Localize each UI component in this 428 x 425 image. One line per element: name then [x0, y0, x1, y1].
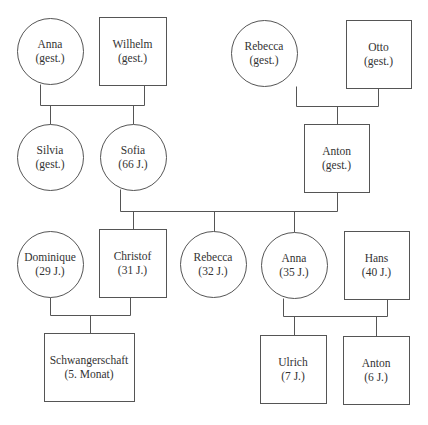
person-name: Rebecca	[194, 250, 233, 264]
person-anton-gen4: Anton (6 J.)	[343, 336, 409, 404]
person-sofia: Sofia (66 J.)	[100, 124, 166, 190]
person-rebecca-gen3: Rebecca (32 J.)	[180, 231, 246, 297]
connection-lines	[41, 85, 388, 337]
person-name: Anton	[362, 356, 391, 370]
person-name: Dominique	[24, 250, 76, 264]
person-status: (gest.)	[249, 53, 278, 67]
person-status: (gest.)	[118, 51, 147, 65]
person-wilhelm: Wilhelm (gest.)	[99, 17, 166, 85]
person-status: (gest.)	[364, 54, 393, 68]
person-ulrich: Ulrich (7 J.)	[260, 335, 326, 403]
person-anna-gen3: Anna (35 J.)	[261, 232, 327, 298]
person-silvia: Silvia (gest.)	[17, 124, 83, 190]
person-status: (66 J.)	[118, 157, 147, 171]
person-name: Wilhelm	[113, 37, 153, 51]
person-status: (gest.)	[322, 158, 351, 172]
person-rebecca-gen1: Rebecca (gest.)	[231, 20, 297, 86]
person-status: (gest.)	[35, 51, 64, 65]
person-hans: Hans (40 J.)	[344, 231, 409, 299]
person-name: Silvia	[37, 143, 64, 157]
person-name: Sofia	[121, 143, 145, 157]
person-name: Rebecca	[245, 39, 284, 53]
person-schwangerschaft: Schwangerschaft (5. Monat)	[44, 333, 134, 401]
person-name: Anton	[322, 144, 351, 158]
person-status: (32 J.)	[198, 264, 227, 278]
person-status: (7 J.)	[281, 369, 305, 383]
person-name: Anna	[282, 251, 307, 265]
person-otto: Otto (gest.)	[346, 20, 411, 88]
person-anna-gen1: Anna (gest.)	[17, 18, 83, 84]
person-dominique: Dominique (29 J.)	[17, 231, 83, 297]
person-status: (gest.)	[35, 157, 64, 171]
person-christof: Christof (31 J.)	[99, 229, 166, 297]
person-status: (5. Monat)	[64, 367, 113, 381]
person-status: (35 J.)	[279, 265, 308, 279]
person-name: Ulrich	[278, 355, 307, 369]
person-name: Hans	[365, 251, 389, 265]
person-anton-gen2: Anton (gest.)	[304, 124, 369, 192]
person-status: (29 J.)	[35, 264, 64, 278]
person-status: (31 J.)	[118, 263, 147, 277]
person-name: Anna	[38, 37, 63, 51]
person-status: (40 J.)	[362, 265, 391, 279]
person-name: Christof	[114, 249, 152, 263]
person-name: Otto	[368, 40, 388, 54]
person-status: (6 J.)	[364, 370, 388, 384]
person-name: Schwangerschaft	[50, 353, 129, 367]
